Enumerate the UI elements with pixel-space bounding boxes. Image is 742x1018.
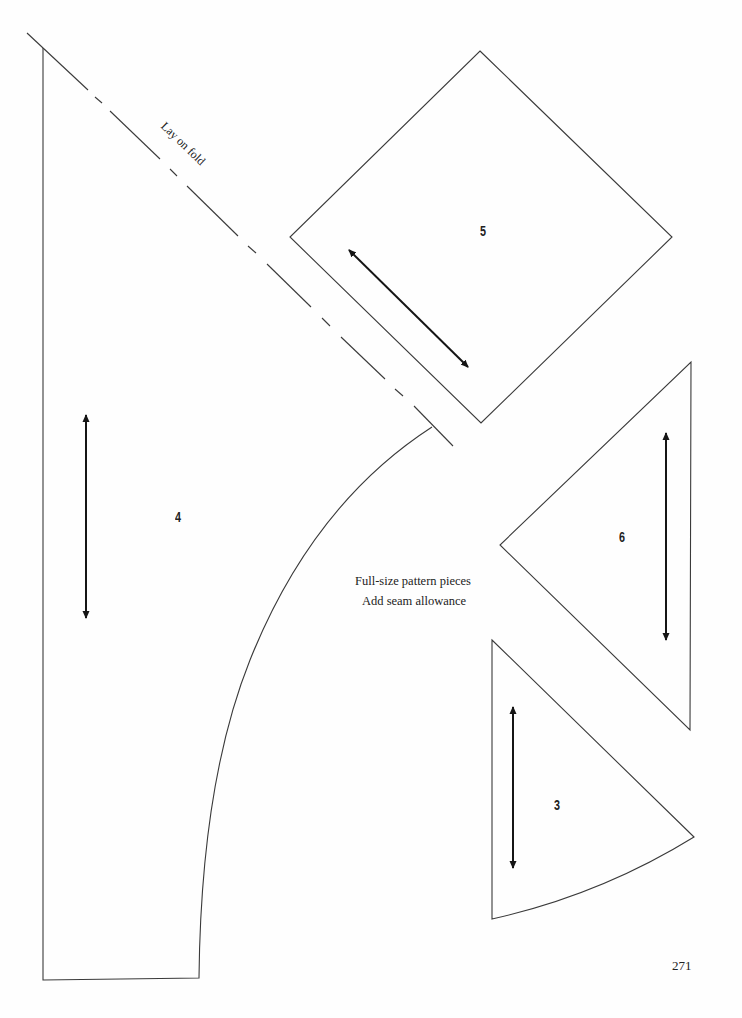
pattern-drawing	[0, 0, 742, 1018]
piece-3-label: 3	[554, 796, 560, 813]
piece-5-grainline	[349, 250, 468, 367]
piece-6-label: 6	[619, 528, 625, 545]
page-number: 271	[672, 958, 692, 974]
piece-5-label: 5	[480, 222, 486, 239]
piece-4-label: 4	[175, 508, 181, 525]
piece-6-outline	[500, 362, 691, 730]
fold-line	[27, 33, 453, 446]
pattern-page: Lay on fold 4 5 6 3 Full-size pattern pi…	[0, 0, 742, 1018]
note-seam-allowance: Add seam allowance	[362, 591, 466, 611]
piece-3-outline	[492, 640, 694, 919]
note-full-size: Full-size pattern pieces	[355, 571, 471, 591]
piece-4-outline	[43, 48, 432, 980]
